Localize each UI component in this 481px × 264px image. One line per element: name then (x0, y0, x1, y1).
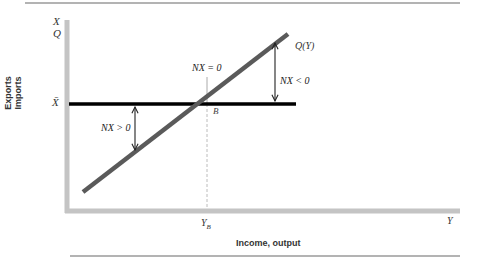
nx-negative-label: NX < 0 (280, 75, 310, 86)
diagram-page: X Q X̄ Exports Imports Q(Y) NX = 0 NX < … (0, 0, 481, 264)
nx-positive-label: NX > 0 (101, 122, 131, 133)
y-axis-side-label: Exports Imports (3, 58, 23, 128)
y-axis-top-label-x: X (53, 15, 60, 27)
y-b-sub: B (207, 223, 211, 231)
exports-label: Exports (3, 58, 13, 128)
nx-zero-label: NX = 0 (192, 62, 222, 73)
net-exports-diagram (0, 0, 481, 264)
x-axis-title: Income, output (236, 238, 301, 248)
point-b-label: B (213, 106, 219, 116)
imports-label: Imports (13, 58, 23, 128)
q-of-y-label: Q(Y) (295, 40, 314, 51)
y-b-tick-label: YB (201, 217, 211, 231)
imports-line (83, 34, 288, 192)
x-axis-end-label: Y (447, 215, 453, 226)
x-bar-label: X̄ (52, 96, 59, 108)
y-axis-top-label-q: Q (53, 27, 61, 39)
